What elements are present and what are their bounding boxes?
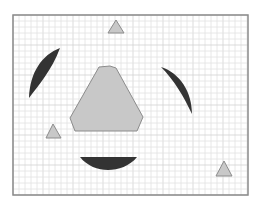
diagram-canvas (0, 0, 259, 202)
central-hexagon (70, 66, 143, 131)
triangle-bottom-right (216, 161, 232, 176)
crescent-bottom (80, 157, 137, 170)
triangle-top (108, 20, 124, 33)
triangle-left (46, 124, 61, 138)
